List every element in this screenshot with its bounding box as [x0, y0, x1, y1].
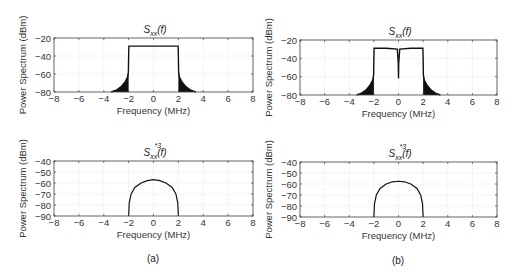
y-tick-label: −90: [281, 212, 297, 223]
y-tick-label: −60: [35, 69, 51, 80]
x-tick-label: 4: [445, 96, 450, 107]
x-tick-label: −4: [98, 93, 109, 104]
y-tick-label: −80: [35, 200, 51, 211]
y-axis-label: Power Spectrum (dBm): [17, 16, 28, 115]
y-tick-label: −80: [281, 90, 297, 101]
y-tick-label: −40: [35, 156, 51, 167]
x-tick-label: 4: [201, 93, 206, 104]
plot-b-bottom-sxx3: −8−6−4−202468−40−50−60−70−80−90Frequency…: [263, 140, 500, 241]
x-tick-label: 2: [420, 218, 425, 229]
x-tick-label: 6: [225, 93, 230, 104]
x-tick-label: 6: [225, 217, 230, 228]
x-tick-label: 0: [151, 217, 156, 228]
y-tick-label: −20: [281, 35, 297, 46]
x-axis-label: Frequency (MHz): [362, 108, 435, 119]
y-tick-label: −60: [281, 179, 297, 190]
y-tick-label: −70: [35, 189, 51, 200]
x-axis-label: Frequency (MHz): [362, 230, 435, 241]
x-tick-label: 6: [470, 96, 475, 107]
x-tick-label: 2: [420, 96, 425, 107]
plot-title: Sxx(f): [389, 26, 412, 39]
y-tick-label: −60: [281, 71, 297, 82]
x-axis-label: Frequency (MHz): [117, 229, 190, 240]
x-axis-label: Frequency (MHz): [117, 105, 190, 116]
plot-a-bottom-sxx3: −8−6−4−202468−40−50−60−70−80−90Frequency…: [17, 139, 256, 240]
x-tick-label: 8: [250, 93, 255, 104]
y-tick-label: −80: [281, 201, 297, 212]
x-tick-label: 8: [250, 217, 255, 228]
title-superscript: *3: [155, 142, 162, 149]
x-tick-label: −2: [368, 96, 379, 107]
x-tick-label: 0: [151, 93, 156, 104]
y-tick-label: −40: [281, 53, 297, 64]
x-tick-label: 0: [396, 218, 401, 229]
y-tick-label: −70: [281, 190, 297, 201]
x-tick-label: 2: [176, 217, 181, 228]
plot-a-top-sxx: −8−6−4−202468−20−40−60−80Frequency (MHz)…: [17, 16, 256, 116]
x-tick-label: 6: [470, 218, 475, 229]
x-tick-label: −4: [344, 96, 355, 107]
y-tick-label: −80: [35, 87, 51, 98]
plot-title: Sxx(f): [144, 24, 167, 37]
x-tick-label: −6: [73, 217, 84, 228]
plot-b-top-sxx: −8−6−4−202468−20−40−60−80Frequency (MHz)…: [263, 18, 500, 119]
y-tick-label: −20: [35, 33, 51, 44]
x-tick-label: 2: [176, 93, 181, 104]
x-tick-label: −4: [98, 217, 109, 228]
x-tick-label: 4: [201, 217, 206, 228]
y-tick-label: −40: [281, 157, 297, 168]
x-tick-label: 8: [494, 218, 499, 229]
y-tick-label: −60: [35, 178, 51, 189]
x-tick-label: −6: [73, 93, 84, 104]
x-tick-label: −6: [319, 218, 330, 229]
x-tick-label: 8: [494, 96, 499, 107]
figure: −8−6−4−202468−20−40−60−80Frequency (MHz)…: [0, 0, 519, 275]
y-axis-label: Power Spectrum (dBm): [263, 140, 274, 239]
x-tick-label: 4: [445, 218, 450, 229]
x-tick-label: −2: [123, 93, 134, 104]
x-tick-label: −2: [368, 218, 379, 229]
x-tick-label: −6: [319, 96, 330, 107]
y-tick-label: −90: [35, 211, 51, 222]
x-tick-label: 0: [396, 96, 401, 107]
title-superscript: *3: [400, 143, 407, 150]
y-axis-label: Power Spectrum (dBm): [17, 139, 28, 238]
x-tick-label: −2: [123, 217, 134, 228]
y-tick-label: −40: [35, 51, 51, 62]
y-tick-label: −50: [35, 167, 51, 178]
y-tick-label: −50: [281, 168, 297, 179]
caption-b: (b): [392, 255, 404, 266]
x-tick-label: −4: [344, 218, 355, 229]
caption-a: (a): [147, 253, 159, 264]
y-axis-label: Power Spectrum (dBm): [263, 18, 274, 117]
